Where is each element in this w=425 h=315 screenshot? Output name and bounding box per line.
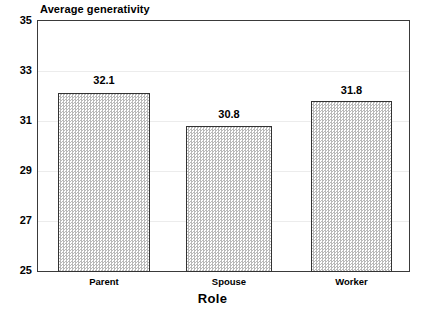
- x-tick-label-spouse: Spouse: [186, 276, 272, 287]
- y-tick-label-25: 25: [2, 264, 32, 276]
- bar-worker[interactable]: [311, 101, 392, 272]
- y-tick-label-33: 33: [2, 64, 32, 76]
- bar-spouse[interactable]: [186, 126, 272, 272]
- bars-layer: [37, 20, 410, 272]
- bar-chart: Average generativity 35 33 31 29 27 25 3…: [0, 0, 425, 315]
- bar-value-worker: 31.8: [311, 84, 392, 96]
- y-tick-label-27: 27: [2, 214, 32, 226]
- x-tick-label-parent: Parent: [58, 276, 150, 287]
- chart-title: Average generativity: [40, 3, 150, 15]
- y-tick-label-31: 31: [2, 114, 32, 126]
- y-tick-label-35: 35: [2, 14, 32, 26]
- bar-value-parent: 32.1: [58, 74, 150, 86]
- x-tick-label-worker: Worker: [311, 276, 392, 287]
- y-tick-label-29: 29: [2, 164, 32, 176]
- x-axis-title: Role: [0, 291, 425, 306]
- bar-value-spouse: 30.8: [186, 108, 272, 120]
- bar-parent[interactable]: [58, 93, 150, 272]
